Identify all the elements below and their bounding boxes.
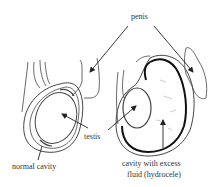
fluid-cavity [122, 59, 186, 152]
hydrocele-label-line2: fluid (hydrocele) [127, 170, 181, 179]
arrow-penis-left [90, 26, 128, 72]
scrotum-outer-right [116, 55, 194, 156]
normal-cavity-label: normal cavity [12, 162, 56, 171]
hydrocele-diagram [0, 0, 215, 187]
testis-right [123, 88, 151, 128]
penis-left [72, 60, 82, 96]
arrow-normal-cavity [38, 146, 42, 160]
penis-label: penis [131, 12, 148, 21]
hydrocele-scrotum-figure [116, 48, 207, 156]
arrow-testis-left [62, 114, 88, 128]
testis-label: testis [84, 132, 100, 141]
hydrocele-label-line1: cavity with excess [122, 159, 181, 168]
